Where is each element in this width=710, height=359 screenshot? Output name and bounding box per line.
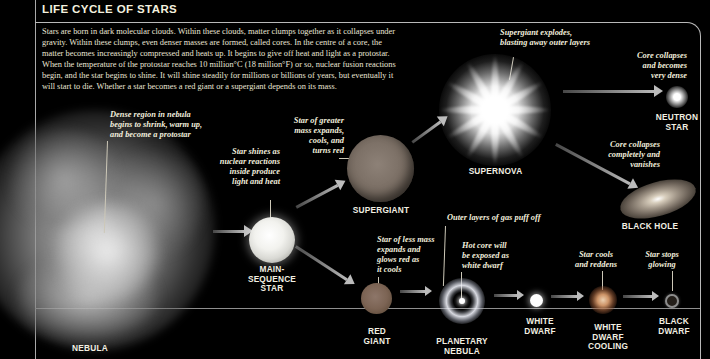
caption-greater-mass: Star of greater mass expands, cools, and… bbox=[268, 116, 344, 156]
arrow-supernova-to-neutron-star bbox=[563, 85, 663, 97]
caption-hot-core: Hot core will be exposed as white dwarf bbox=[462, 241, 524, 271]
caption-supergiant-explodes: Supergiant explodes, blasting away outer… bbox=[500, 28, 630, 48]
neutron-star-illustration bbox=[666, 86, 688, 108]
caption-outer-layers: Outer layers of gas puff off bbox=[447, 213, 567, 223]
black-dwarf-illustration bbox=[665, 294, 679, 308]
arrow-red-giant-to-planetary-nebula bbox=[400, 286, 432, 296]
arrow-planetary-nebula-to-white-dwarf bbox=[494, 290, 524, 300]
nebula-bright-core bbox=[52, 201, 162, 302]
label-main-sequence-star: MAIN- SEQUENCE STAR bbox=[239, 265, 305, 294]
caption-star-stops: Star stops glowing bbox=[638, 250, 686, 270]
label-white-dwarf: WHITE DWARF bbox=[516, 317, 564, 336]
caption-less-mass: Star of less mass expands and glows red … bbox=[377, 235, 449, 275]
label-supergiant: SUPERGIANT bbox=[340, 206, 422, 216]
caption-core-dense: Core collapses and becomes very dense bbox=[613, 51, 687, 81]
page-title: LIFE CYCLE OF STARS bbox=[42, 3, 177, 15]
arrow-white-dwarf-to-cooling bbox=[551, 291, 584, 301]
label-neutron-star: NEUTRON STAR bbox=[644, 113, 710, 132]
caption-dense-region: Dense region in nebula begins to shrink,… bbox=[110, 110, 260, 140]
supergiant-illustration bbox=[347, 135, 414, 202]
arrow-nebula-to-main-sequence bbox=[213, 225, 253, 237]
main-sequence-star-illustration bbox=[249, 217, 295, 263]
leader-star-stops bbox=[672, 271, 673, 291]
life-cycle-of-stars-diagram: LIFE CYCLE OF STARS Stars are born in da… bbox=[0, 0, 710, 359]
label-black-dwarf: BLACK DWARF bbox=[650, 317, 698, 336]
intro-paragraph: Stars are born in dark molecular clouds.… bbox=[42, 26, 522, 92]
white-dwarf-illustration bbox=[530, 294, 543, 307]
label-black-hole: BLACK HOLE bbox=[613, 222, 687, 232]
caption-star-cools: Star cools and reddens bbox=[568, 250, 624, 270]
label-planetary-nebula: PLANETARY NEBULA bbox=[431, 337, 493, 356]
planetary-nebula-core bbox=[459, 298, 465, 304]
white-dwarf-cooling-illustration bbox=[589, 286, 617, 314]
label-supernova: SUPERNOVA bbox=[453, 167, 538, 177]
caption-core-vanishes: Core collapses completely and vanishes bbox=[592, 140, 660, 170]
label-nebula: NEBULA bbox=[60, 344, 120, 354]
label-red-giant: RED GIANT bbox=[355, 327, 399, 346]
label-white-dwarf-cooling: WHITE DWARF COOLING bbox=[584, 323, 632, 352]
arrow-cooling-to-black-dwarf bbox=[623, 291, 659, 301]
red-giant-illustration bbox=[361, 283, 392, 314]
